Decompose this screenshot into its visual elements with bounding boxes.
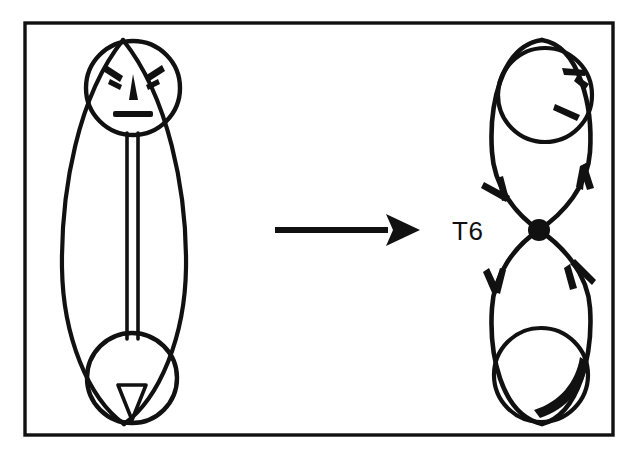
arrow-head-icon (386, 214, 420, 246)
left-eyebrow-icon (103, 65, 123, 82)
nose-icon (129, 74, 138, 100)
mouth-icon (113, 111, 153, 117)
top-right-ascending-arrowhead-barb-icon (576, 163, 586, 190)
figure-canvas: T6 (0, 0, 639, 454)
figure-eight-flow-diagram: T6 (452, 40, 596, 424)
figure-container: T6 (0, 0, 639, 454)
bottom-circle (87, 333, 177, 423)
lens-left-arc (62, 40, 124, 424)
arrow-shaft (275, 227, 388, 233)
top-inner-circle-tick-lower-icon (553, 104, 580, 121)
node-label: T6 (452, 216, 483, 246)
right-eyebrow-icon (145, 65, 165, 82)
transformation-arrow (275, 214, 420, 246)
lens-figure-with-face (62, 40, 186, 424)
top-inner-circle (498, 48, 592, 142)
